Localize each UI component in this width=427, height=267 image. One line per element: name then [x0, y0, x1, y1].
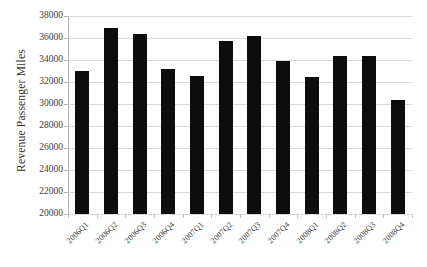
x-axis-tick-mark: [183, 214, 184, 218]
x-axis-tick-mark: [240, 214, 241, 218]
bar: [391, 100, 405, 214]
y-axis-tick-label: 28000: [3, 121, 63, 131]
gridline: [68, 192, 412, 193]
bar: [133, 34, 147, 214]
x-axis-tick-mark: [297, 214, 298, 218]
gridline: [68, 170, 412, 171]
y-axis-tick-label: 34000: [3, 55, 63, 65]
gridline: [68, 148, 412, 149]
x-axis-tick-mark: [383, 214, 384, 218]
y-axis-tick-label: 20000: [3, 209, 63, 219]
x-axis-tick-mark: [326, 214, 327, 218]
y-axis-tick-label: 24000: [3, 165, 63, 175]
x-axis-tick-mark: [125, 214, 126, 218]
gridline: [68, 60, 412, 61]
bar: [276, 61, 290, 214]
gridline: [68, 38, 412, 39]
x-axis-tick-mark: [68, 214, 69, 218]
y-axis-tick-label: 22000: [3, 187, 63, 197]
bar-chart: Revenue Passenger Miles 2000022000240002…: [0, 0, 427, 267]
bar: [305, 77, 319, 214]
y-axis-tick-label: 30000: [3, 99, 63, 109]
x-axis-tick-mark: [355, 214, 356, 218]
x-axis-tick-mark: [154, 214, 155, 218]
gridline: [68, 82, 412, 83]
bar: [75, 71, 89, 214]
bar: [247, 36, 261, 214]
x-axis-tick-mark: [412, 214, 413, 218]
x-axis-tick-labels: 2006Q12006Q22006Q32006Q42007Q12007Q22007…: [68, 214, 412, 267]
plot-area: [68, 16, 412, 214]
y-axis-tick-labels: 2000022000240002600028000300003200034000…: [0, 0, 63, 267]
x-axis-tick-mark: [269, 214, 270, 218]
gridline: [68, 16, 412, 17]
y-axis-tick-label: 32000: [3, 77, 63, 87]
bar: [219, 41, 233, 214]
bar: [104, 28, 118, 214]
y-axis-tick-label: 26000: [3, 143, 63, 153]
bar: [333, 56, 347, 214]
bar: [190, 76, 204, 214]
gridline: [68, 126, 412, 127]
gridline: [68, 104, 412, 105]
bar: [362, 56, 376, 214]
x-axis-tick-mark: [211, 214, 212, 218]
bar: [161, 69, 175, 214]
x-axis-tick-mark: [97, 214, 98, 218]
y-axis-tick-label: 36000: [3, 33, 63, 43]
y-axis-tick-label: 38000: [3, 11, 63, 21]
